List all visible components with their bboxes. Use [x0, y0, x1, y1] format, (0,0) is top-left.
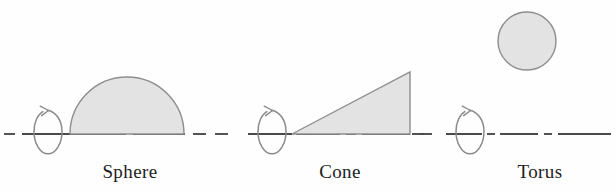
sphere-rotation-arrow [34, 106, 62, 156]
caption-torus: Torus [470, 161, 610, 183]
caption-sphere: Sphere [60, 161, 200, 183]
torus-arrowhead-icon [462, 106, 470, 115]
half-disk-region [70, 77, 184, 134]
panel-sphere [4, 77, 206, 156]
solids-of-revolution-figure: Sphere Cone Torus [0, 0, 615, 193]
torus-rotation-arrow [456, 106, 484, 154]
panel-cone [215, 72, 432, 154]
cone-arrowhead-icon [264, 106, 272, 115]
caption-cone: Cone [270, 161, 410, 183]
disk-region [498, 12, 556, 70]
triangle-region [292, 72, 410, 134]
panel-torus [412, 12, 611, 154]
cone-rotation-arrow [258, 106, 286, 154]
